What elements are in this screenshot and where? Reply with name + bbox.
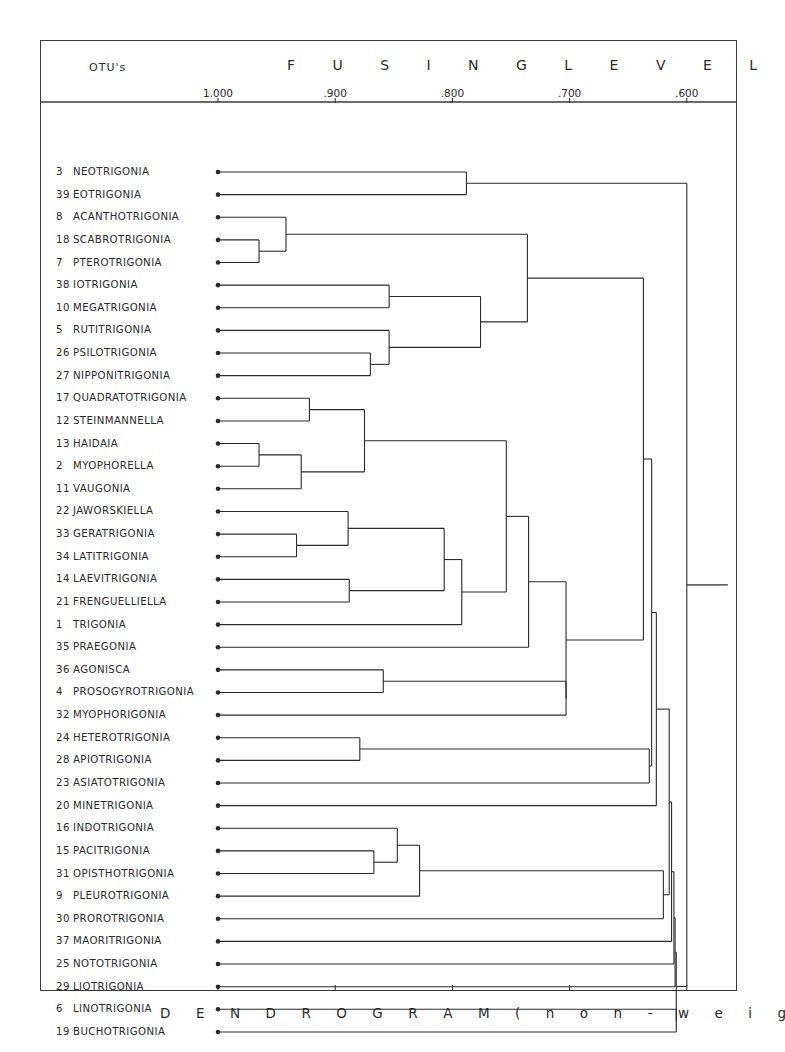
chart-caption: D E N D R O G R A M ( n o n - w e i g h …: [160, 1005, 785, 1021]
dendrogram-tree: [0, 0, 785, 1052]
